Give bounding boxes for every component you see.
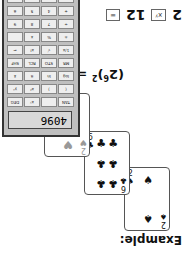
calc-key: MR (58, 58, 74, 68)
club-icon: ♣ (108, 158, 118, 169)
club-icon: ♣ (108, 178, 118, 189)
calc-key: yˣ (7, 84, 23, 94)
calc-key: 9 (7, 19, 23, 29)
card-corner: 2♠ (160, 212, 167, 228)
club-icon: ♣ (96, 158, 106, 169)
calc-key: ← (7, 45, 23, 55)
calc-key: ln (41, 71, 57, 81)
club-icon: ♣ (96, 138, 106, 149)
calc-key: x (24, 32, 40, 42)
calc-key: 7 (41, 19, 57, 29)
calc-key: x! (24, 45, 40, 55)
spade-icon: ♠ (143, 213, 153, 224)
calc-key: 2 (24, 0, 40, 3)
calc-key: x² (24, 84, 40, 94)
calc-key (7, 32, 23, 42)
card-two-of-spades: 2♠ ♠ ♠ 2♠ (124, 167, 170, 231)
calc-key: % (41, 32, 57, 42)
calc-key: π (24, 71, 40, 81)
calc-key: 8 (24, 19, 40, 29)
calculator-keypad: TAN xʸ DEG ( ) x² yˣ log ln π x̄ MR STO … (9, 0, 74, 107)
calc-key: xʸ (24, 97, 40, 107)
spade-icon: ♠ (143, 175, 153, 186)
card-corner: 6♣ (120, 176, 127, 192)
calc-key: 1 (41, 0, 57, 3)
calc-key: ± (58, 32, 74, 42)
calc-key: 4 (41, 6, 57, 16)
calc-key: SHF (7, 58, 23, 68)
calc-key: ÷ (58, 19, 74, 29)
operand-a: 2 (172, 7, 182, 23)
card-corner: 2♥ (80, 138, 87, 154)
calc-key: RCL (24, 58, 40, 68)
calc-key: 5 (24, 6, 40, 16)
calculator-display: 4096 (8, 111, 72, 129)
calc-key: 1/x (58, 45, 74, 55)
operand-b: 12 (126, 7, 145, 23)
calc-key: 3 (7, 0, 23, 3)
calc-key: DEG (7, 97, 23, 107)
calc-key: − (58, 0, 74, 3)
card-six-of-clubs: 6♣ ♣ ♣ ♣ ♣ ♣ ♣ 6♣ (84, 131, 130, 195)
calc-key: STO (41, 58, 57, 68)
calc-key: √ (41, 45, 57, 55)
calc-key (41, 97, 57, 107)
calc-key: ( (58, 84, 74, 94)
calc-key: 6 (7, 6, 23, 16)
calc-key: x̄ (7, 71, 23, 81)
calc-key: + (58, 6, 74, 16)
key-sequence: 2 xʸ 12 = (106, 7, 182, 23)
page: Example: 2♠ ♠ ♠ 2♠ 6♣ ♣ ♣ ♣ ♣ ♣ ♣ 6♣ 2♥ … (0, 0, 190, 253)
equals-key-icon: = (106, 9, 120, 21)
club-icon: ♣ (96, 178, 106, 189)
heart-icon: ♥ (63, 139, 73, 150)
power-key-icon: xʸ (151, 9, 166, 21)
calculator-image: 4096 TAN xʸ DEG ( ) x² yˣ log ln π x̄ MR… (2, 0, 80, 137)
example-title: Example: (120, 233, 182, 247)
calc-key: ) (41, 84, 57, 94)
calc-key: log (58, 71, 74, 81)
calc-key: TAN (58, 97, 74, 107)
club-icon: ♣ (108, 138, 118, 149)
